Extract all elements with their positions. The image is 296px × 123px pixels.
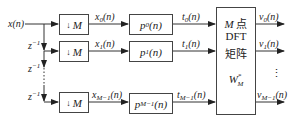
dft-matrix-label: 矩阵 — [217, 45, 255, 61]
delay-label-1: z−1 — [28, 38, 40, 51]
dft-matrix-block: M 点 DFT 矩阵 W*M — [216, 7, 256, 115]
t0-label: t0(n) — [182, 12, 200, 25]
delay-label-3: z−1 — [28, 89, 40, 102]
vm1-label: vM−1(n) — [257, 90, 287, 103]
dft-label: DFT — [217, 30, 255, 42]
decimator-box-m1: ↓M — [59, 92, 89, 113]
t1-label: t1(n) — [182, 39, 200, 52]
filter-box-1: p1(n) — [129, 41, 173, 62]
v0-label: v0(n) — [259, 12, 279, 25]
x0-label: x0(n) — [95, 12, 115, 25]
tm1-label: tM−1(n) — [177, 90, 206, 103]
x1-label: x1(n) — [95, 39, 115, 52]
dft-matrix-symbol: W*M — [217, 72, 255, 88]
output-ellipsis: ⋮ — [271, 68, 282, 78]
xm1-label: xM−1(n) — [92, 90, 122, 103]
filter-box-m1: pM−1(n) — [129, 93, 173, 114]
decimator-box-1: ↓M — [59, 41, 89, 62]
filter-box-0: p0(n) — [129, 14, 173, 35]
dft-title: M 点 — [217, 15, 255, 31]
input-signal-label: x(n) — [8, 19, 24, 29]
decimator-box-0: ↓M — [59, 14, 89, 35]
v1-label: v1(n) — [259, 39, 279, 52]
delay-label-2: z−1 — [28, 61, 40, 74]
